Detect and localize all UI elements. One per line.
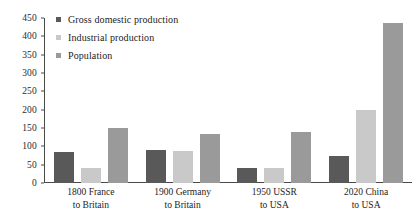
legend-item[interactable]: Gross domestic production <box>56 14 178 25</box>
x-axis-label-line2: to USA <box>320 199 412 212</box>
bar <box>356 110 376 183</box>
bar <box>173 151 193 183</box>
legend-label: Gross domestic production <box>68 14 178 25</box>
bar-chart: 450400350300250200150100500 1800 Francet… <box>0 0 420 220</box>
y-tick-label: 250 <box>22 86 37 96</box>
x-axis-label: 1900 Germanyto Britain <box>137 186 229 211</box>
y-tick-label: 0 <box>32 178 37 188</box>
bar <box>291 132 311 183</box>
bar <box>54 152 74 183</box>
x-axis-label-line2: to Britain <box>45 199 137 212</box>
legend-label: Industrial production <box>68 32 154 43</box>
x-axis-label-line1: 1900 Germany <box>154 187 211 197</box>
legend-label: Population <box>68 50 112 61</box>
bar <box>383 23 403 183</box>
bar-group <box>229 18 321 183</box>
legend-item[interactable]: Population <box>56 50 178 61</box>
y-tick-label: 450 <box>22 13 37 23</box>
bar <box>200 134 220 184</box>
legend-swatch-icon <box>56 53 61 58</box>
x-axis-label-line2: to Britain <box>137 199 229 212</box>
y-tick-label: 350 <box>22 50 37 60</box>
x-axis-label-line1: 2020 China <box>344 187 388 197</box>
bar <box>329 156 349 184</box>
bar <box>108 128 128 183</box>
y-tick-label: 300 <box>22 68 37 78</box>
y-axis: 450400350300250200150100500 <box>0 18 44 183</box>
bar-group <box>320 18 412 183</box>
x-axis-label-line1: 1800 France <box>67 187 114 197</box>
legend-item[interactable]: Industrial production <box>56 32 178 43</box>
chart-legend: Gross domestic productionIndustrial prod… <box>56 14 178 61</box>
y-tick-label: 200 <box>22 105 37 115</box>
bar <box>81 168 101 183</box>
x-axis-label: 1950 USSRto USA <box>229 186 321 211</box>
x-axis-label: 2020 Chinato USA <box>320 186 412 211</box>
legend-swatch-icon <box>56 17 61 22</box>
x-axis-label-line2: to USA <box>229 199 321 212</box>
bar <box>264 168 284 183</box>
y-tick-label: 400 <box>22 31 37 41</box>
x-axis-label-line1: 1950 USSR <box>252 187 297 197</box>
y-tick-label: 100 <box>22 141 37 151</box>
legend-swatch-icon <box>56 35 61 40</box>
x-axis-labels: 1800 Franceto Britain1900 Germanyto Brit… <box>45 186 412 211</box>
y-tick-label: 150 <box>22 123 37 133</box>
y-tick-label: 50 <box>27 160 37 170</box>
x-axis-label: 1800 Franceto Britain <box>45 186 137 211</box>
bar <box>146 150 166 183</box>
bar <box>237 168 257 183</box>
